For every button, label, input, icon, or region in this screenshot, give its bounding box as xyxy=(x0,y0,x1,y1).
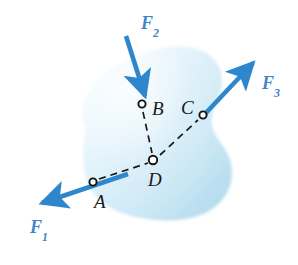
point-label-A: A xyxy=(94,192,106,211)
point-marker-D xyxy=(149,156,157,164)
point-marker-C xyxy=(199,111,206,118)
force-label-F2-base: F xyxy=(141,13,153,33)
force-label-F3: F3 xyxy=(262,74,280,96)
force-diagram-figure: A B C D F1 F2 F3 xyxy=(0,0,298,265)
point-marker-A xyxy=(89,178,96,185)
force-label-F1: F1 xyxy=(30,218,48,240)
force-label-F3-base: F xyxy=(262,73,274,93)
force-label-F1-subscript: 1 xyxy=(42,230,48,244)
point-label-D: D xyxy=(148,170,162,189)
force-label-F1-base: F xyxy=(30,217,42,237)
point-label-B: B xyxy=(152,99,164,118)
force-label-F2: F2 xyxy=(141,14,159,36)
force-label-F3-subscript: 3 xyxy=(274,86,280,100)
force-label-F2-subscript: 2 xyxy=(153,26,159,40)
point-label-C: C xyxy=(181,98,194,117)
point-marker-B xyxy=(138,100,145,107)
